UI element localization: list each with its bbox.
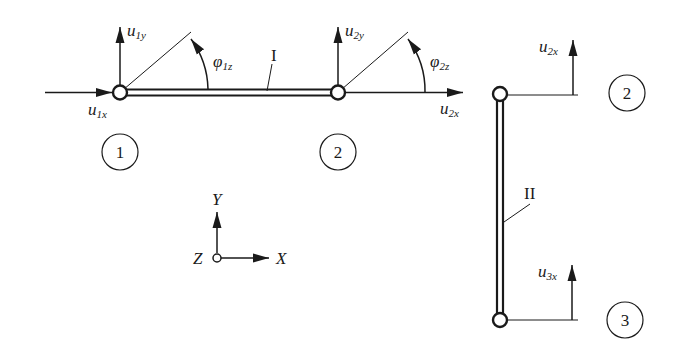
element-I-leader bbox=[267, 64, 272, 91]
rotation-arc-icon bbox=[191, 39, 208, 89]
u1x-label: u1x bbox=[88, 100, 107, 120]
rotation-arc-icon bbox=[408, 39, 425, 92]
u3x-label: u3x bbox=[538, 262, 557, 282]
u2y-label: u2y bbox=[345, 21, 364, 41]
element-II-leader bbox=[504, 204, 530, 222]
node-2-number: 2 bbox=[334, 143, 343, 162]
u2x-vertical-label: u2x bbox=[539, 37, 558, 57]
node-3-pin bbox=[493, 313, 507, 327]
node-2-vertical-pin bbox=[493, 87, 507, 101]
u1y-label: u1y bbox=[127, 21, 146, 41]
phi1z-label: φ1z bbox=[213, 52, 233, 72]
dof-u1x: u1x bbox=[45, 93, 112, 121]
node-1-tag: 1 bbox=[102, 134, 138, 170]
node-1-number: 1 bbox=[116, 143, 125, 162]
z-axis-label: Z bbox=[193, 249, 203, 268]
u2x-label: u2x bbox=[440, 99, 459, 119]
element-II-label: II bbox=[524, 184, 536, 203]
node-1-pin bbox=[113, 86, 127, 100]
node-3-tag: 3 bbox=[607, 302, 643, 338]
z-axis-origin-icon bbox=[213, 254, 221, 262]
node-2-vertical-tag: 2 bbox=[609, 75, 645, 111]
node-2-pin bbox=[331, 86, 345, 100]
beam-element-diagram: I u1x u1y φ1z u2y φ2z bbox=[0, 0, 679, 355]
node-2-tag: 2 bbox=[320, 134, 356, 170]
dof-u3x: u3x bbox=[507, 262, 578, 320]
dof-u2x-horizontal: u2x bbox=[345, 93, 463, 120]
node-3-number: 3 bbox=[621, 311, 630, 330]
dof-phi2z: φ2z bbox=[338, 32, 450, 93]
coordinate-axes: Y X Z bbox=[193, 190, 287, 268]
rotation-reference-line bbox=[338, 32, 408, 93]
node-2-vertical-number: 2 bbox=[623, 84, 632, 103]
x-axis-label: X bbox=[275, 249, 287, 268]
rotation-reference-line bbox=[120, 32, 191, 93]
dof-u1y: u1y bbox=[120, 21, 146, 86]
y-axis-label: Y bbox=[212, 190, 223, 209]
dof-phi1z: φ1z bbox=[120, 32, 233, 93]
phi2z-label: φ2z bbox=[430, 52, 450, 72]
dof-u2x-vertical: u2x bbox=[507, 37, 578, 95]
element-II: II bbox=[497, 94, 536, 320]
element-I-label: I bbox=[271, 46, 277, 65]
dof-u2y: u2y bbox=[338, 21, 364, 86]
